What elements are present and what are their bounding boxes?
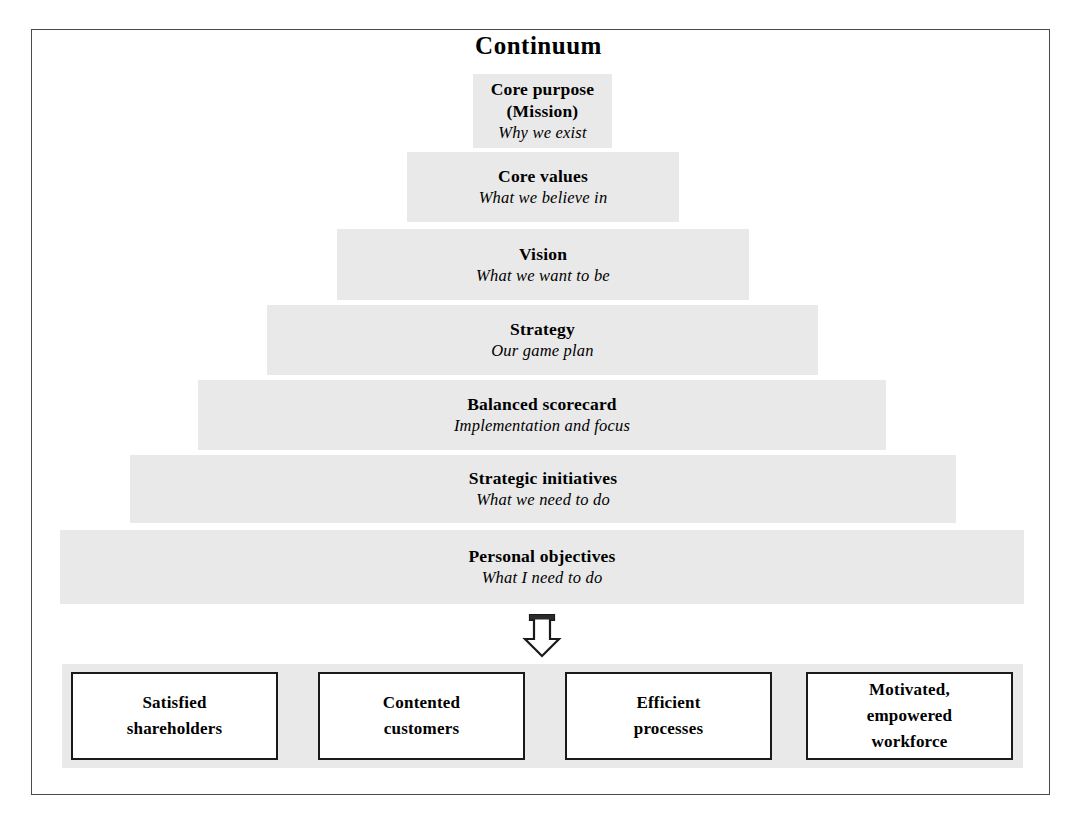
band-subtitle: What we need to do: [476, 489, 610, 511]
outcome-box-1[interactable]: Satisfiedshareholders: [71, 672, 278, 760]
band-title: Core purpose(Mission): [491, 78, 595, 122]
band-title: Personal objectives: [468, 545, 615, 567]
outcome-label: Motivated,empoweredworkforce: [867, 677, 953, 755]
diagram-canvas: Continuum Core purpose(Mission)Why we ex…: [0, 0, 1077, 820]
band-subtitle: What we want to be: [476, 265, 610, 287]
band-subtitle: What we believe in: [479, 187, 608, 209]
down-arrow-icon: [522, 613, 562, 658]
pyramid-band-3: VisionWhat we want to be: [337, 229, 749, 300]
band-subtitle: What I need to do: [482, 567, 603, 589]
band-subtitle: Implementation and focus: [454, 415, 630, 437]
outcome-box-2[interactable]: Contentedcustomers: [318, 672, 525, 760]
pyramid-band-4: StrategyOur game plan: [267, 305, 818, 375]
outcome-label: Satisfiedshareholders: [127, 690, 223, 742]
outcome-label: Contentedcustomers: [383, 690, 460, 742]
outcome-box-3[interactable]: Efficientprocesses: [565, 672, 772, 760]
pyramid-band-2: Core valuesWhat we believe in: [407, 152, 679, 222]
outcome-box-4[interactable]: Motivated,empoweredworkforce: [806, 672, 1013, 760]
page-title: Continuum: [0, 31, 1077, 61]
pyramid-band-6: Strategic initiativesWhat we need to do: [130, 455, 956, 523]
pyramid-band-7: Personal objectivesWhat I need to do: [60, 530, 1024, 604]
pyramid-band-5: Balanced scorecardImplementation and foc…: [198, 380, 886, 450]
band-subtitle: Our game plan: [491, 340, 594, 362]
outcome-label: Efficientprocesses: [634, 690, 703, 742]
band-title: Strategy: [510, 318, 575, 340]
band-title: Core values: [498, 165, 588, 187]
pyramid-band-1: Core purpose(Mission)Why we exist: [473, 74, 612, 148]
band-subtitle: Why we exist: [498, 122, 587, 144]
band-title: Strategic initiatives: [469, 467, 618, 489]
band-title: Balanced scorecard: [467, 393, 617, 415]
band-title: Vision: [519, 243, 567, 265]
